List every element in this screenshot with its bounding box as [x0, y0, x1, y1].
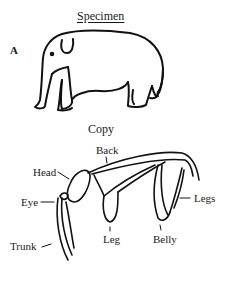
- copy-label-back: Back: [96, 145, 119, 156]
- copy-label-trunk: Trunk: [10, 241, 37, 252]
- copy-label-legs: Legs: [194, 193, 215, 204]
- copy-label-head: Head: [33, 167, 56, 178]
- copy-label-belly: Belly: [153, 234, 177, 245]
- copy-label-leg: Leg: [103, 234, 120, 245]
- copy-label-eye: Eye: [21, 197, 38, 208]
- specimen-elephant-drawing: [35, 31, 163, 111]
